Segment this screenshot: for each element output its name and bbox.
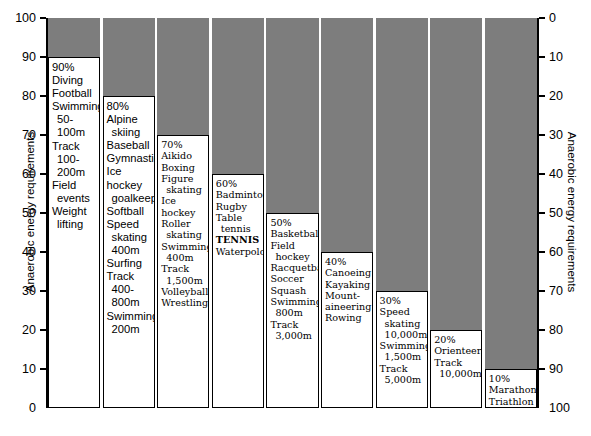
sport-entry: Swimming [107,310,154,323]
sport-entry: skating [161,184,208,195]
right-tick-20 [539,95,545,97]
sport-entry: Field [52,179,99,192]
left-tick-label-80: 80 [2,90,36,103]
sport-entry: Track [161,263,208,274]
column-sport-list: 10%MarathonTriathlon [486,370,536,407]
sport-entry: 50-100m [52,113,99,139]
sport-entry: 200m [107,323,154,336]
sport-entry: Track [107,270,154,283]
sport-entry: Swimming [270,296,317,307]
sport-entry: Orienteering [434,345,481,356]
anaerobic-box: 10%MarathonTriathlon [485,369,537,408]
left-tick-label-10: 10 [2,363,36,376]
sport-entry: 10,000m [434,368,481,379]
right-tick-label-10: 10 [549,51,583,64]
right-tick-label-50: 50 [549,207,583,220]
sport-entry: Swimming [161,241,208,252]
aerobic-fill [485,18,537,408]
left-tick-60 [40,173,46,175]
column-40: 40%CanoeingKayakingMount-aineeringRowing [321,18,373,408]
left-tick-10 [40,368,46,370]
sport-entry: Canoeing [325,267,372,278]
right-tick-label-30: 30 [549,129,583,142]
sport-entry: 3,000m [270,330,317,341]
sport-entry: Track [52,140,99,153]
sport-entry: Swimming [380,340,427,351]
right-tick-50 [539,212,545,214]
sport-entry: Track [434,357,481,368]
column-percent-label: 10% [489,373,536,384]
anaerobic-box: 30%Speedskating10,000mSwimming1,500mTrac… [376,291,428,408]
sport-entry: Boxing [161,162,208,173]
column-sport-list: 30%Speedskating10,000mSwimming1,500mTrac… [377,292,427,385]
right-tick-40 [539,173,545,175]
right-tick-label-60: 60 [549,246,583,259]
sport-entry: 400m [107,244,154,257]
right-tick-label-70: 70 [549,285,583,298]
column-percent-label: 50% [270,217,317,228]
column-50: 50%BasketballFieldhockeyRacquetballSocce… [266,18,318,408]
sport-entry: Wrestling [161,297,208,308]
right-tick-90 [539,368,545,370]
right-tick-0 [539,17,545,19]
left-tick-40 [40,251,46,253]
left-tick-label-40: 40 [2,246,36,259]
anaerobic-box: 40%CanoeingKayakingMount-aineeringRowing [321,252,373,408]
sport-entry: Rugby [216,201,263,212]
column-sport-list: 50%BasketballFieldhockeyRacquetballSocce… [267,214,317,341]
column-sport-list: 80%AlpineskiingBaseballGymnasticsIce hoc… [104,97,154,336]
sport-entry: Triathlon [489,396,536,407]
left-tick-90 [40,56,46,58]
left-tick-30 [40,290,46,292]
sport-entry: Track [380,363,427,374]
column-percent-label: 40% [325,256,372,267]
sport-entry: 400m [161,252,208,263]
sport-entry: TENNIS [216,234,263,245]
sport-entry: Waterpolo [216,246,263,257]
right-tick-60 [539,251,545,253]
left-tick-50 [40,212,46,214]
sport-entry: Marathon [489,384,536,395]
sport-entry: Field [270,240,317,251]
column-60: 60%BadmintonRugbyTabletennisTENNISWaterp… [212,18,264,408]
sport-entry: 100-200m [52,153,99,179]
sport-entry: Rowing [325,312,372,323]
sport-entry: Roller [161,218,208,229]
sport-entry: 800m [270,307,317,318]
left-tick-label-50: 50 [2,207,36,220]
sport-entry: Ice hockey [107,165,154,191]
sport-entry: Basketball [270,228,317,239]
left-tick-100 [40,17,46,19]
sport-entry: skating [380,318,427,329]
sport-entry: Baseball [107,139,154,152]
sport-entry: skating [107,231,154,244]
sport-entry: Mount- [325,290,372,301]
right-tick-label-100: 100 [549,402,583,415]
sport-entry: events [52,192,99,205]
column-30: 30%Speedskating10,000mSwimming1,500mTrac… [376,18,428,408]
sport-entry: 5,000m [380,374,427,385]
column-sport-list: 40%CanoeingKayakingMount-aineeringRowing [322,253,372,324]
column-70: 70%AikidoBoxingFigureskatingIce hockeyRo… [157,18,209,408]
left-tick-label-70: 70 [2,129,36,142]
sport-entry: Ice hockey [161,195,208,218]
sport-entry: hockey [270,251,317,262]
column-percent-label: 90% [52,61,99,74]
anaerobic-box: 50%BasketballFieldhockeyRacquetballSocce… [266,213,318,408]
sport-entry: Racquetball [270,262,317,273]
column-percent-label: 80% [107,100,154,113]
sport-entry: Weight [52,205,99,218]
sport-entry: Aikido [161,150,208,161]
sport-entry: 1,500m [161,275,208,286]
sport-entry: Football [52,87,99,100]
left-tick-70 [40,134,46,136]
sport-entry: Speed [107,218,154,231]
sport-entry: Soccer [270,273,317,284]
column-sport-list: 60%BadmintonRugbyTabletennisTENNISWaterp… [213,175,263,257]
right-tick-label-40: 40 [549,168,583,181]
sport-entry: Speed [380,306,427,317]
sport-entry: 1,500m [380,351,427,362]
plot-area: 90%DivingFootballSwimming50-100mTrack100… [48,18,537,408]
sport-entry: lifting [52,218,99,231]
sport-entry: Alpine [107,113,154,126]
